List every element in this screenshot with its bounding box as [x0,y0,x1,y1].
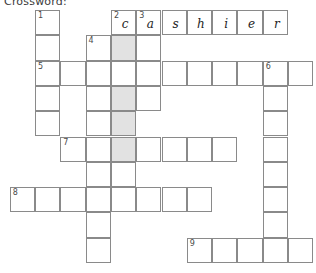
crossword-cell[interactable] [288,61,313,86]
cell-letter: s [163,11,186,34]
crossword-cell[interactable]: 1 [35,10,60,35]
cell-letter: r [264,11,287,34]
cell-letter: e [238,11,261,34]
crossword-cell[interactable] [111,137,136,162]
crossword-cell[interactable] [136,187,161,212]
cell-number: 8 [13,188,18,197]
cell-letter: c [112,11,135,34]
crossword-cell[interactable] [212,61,237,86]
crossword-cell[interactable]: 2c [111,10,136,35]
crossword-cell[interactable] [60,187,85,212]
crossword-cell[interactable]: 5 [35,61,60,86]
crossword-cell[interactable] [35,111,60,136]
crossword-cell[interactable] [35,187,60,212]
crossword-cell[interactable] [187,137,212,162]
cell-number: 1 [38,11,43,20]
crossword-cell[interactable] [263,187,288,212]
crossword-cell[interactable] [86,137,111,162]
crossword-cell[interactable]: s [162,10,187,35]
crossword-cell[interactable] [86,86,111,111]
cell-letter: a [137,11,160,34]
crossword-cell[interactable]: 8 [10,187,35,212]
crossword-cell[interactable] [35,86,60,111]
crossword-cell[interactable] [86,212,111,237]
crossword-cell[interactable] [187,187,212,212]
crossword-cell[interactable] [111,111,136,136]
crossword-cell[interactable] [86,111,111,136]
crossword-cell[interactable] [162,137,187,162]
crossword-cell[interactable] [237,238,262,263]
crossword-cell[interactable] [263,212,288,237]
cell-letter: h [188,11,211,34]
crossword-cell[interactable] [263,111,288,136]
crossword-cell[interactable]: r [263,10,288,35]
crossword-cell[interactable] [136,137,161,162]
crossword-cell[interactable] [136,86,161,111]
crossword-cell[interactable] [86,238,111,263]
cell-letter: i [213,11,236,34]
crossword-cell[interactable] [263,238,288,263]
crossword-cell[interactable] [162,187,187,212]
crossword-cell[interactable] [111,35,136,60]
cell-number: 5 [38,62,43,71]
crossword-cell[interactable] [263,137,288,162]
crossword-cell[interactable] [111,61,136,86]
crossword-cell[interactable]: 9 [187,238,212,263]
cell-number: 2 [114,11,119,20]
crossword-cell[interactable]: 3a [136,10,161,35]
crossword-cell[interactable]: 7 [60,137,85,162]
crossword-cell[interactable]: e [237,10,262,35]
crossword-cell[interactable] [263,86,288,111]
crossword-cell[interactable] [187,61,212,86]
crossword-cell[interactable] [111,187,136,212]
crossword-cell[interactable] [288,238,313,263]
cell-number: 7 [63,138,68,147]
crossword-cell[interactable] [237,61,262,86]
crossword-cell[interactable] [86,162,111,187]
cell-number: 3 [139,11,144,20]
cell-number: 6 [266,62,271,71]
crossword-cell[interactable] [111,162,136,187]
crossword-cell[interactable]: h [187,10,212,35]
crossword-cell[interactable]: 6 [263,61,288,86]
crossword-cell[interactable] [162,61,187,86]
crossword-cell[interactable] [136,61,161,86]
crossword-cell[interactable] [263,162,288,187]
cell-number: 4 [89,36,94,45]
crossword-cell[interactable] [212,238,237,263]
crossword-cell[interactable] [86,187,111,212]
crossword-cell[interactable]: 4 [86,35,111,60]
crossword-cell[interactable] [86,61,111,86]
crossword-cell[interactable] [212,137,237,162]
crossword-cell[interactable]: i [212,10,237,35]
crossword-grid[interactable]: 12c3ashier456789 [0,0,316,273]
cell-number: 9 [190,239,195,248]
crossword-cell[interactable] [111,86,136,111]
crossword-cell[interactable] [136,35,161,60]
crossword-cell[interactable] [60,61,85,86]
crossword-cell[interactable] [35,35,60,60]
